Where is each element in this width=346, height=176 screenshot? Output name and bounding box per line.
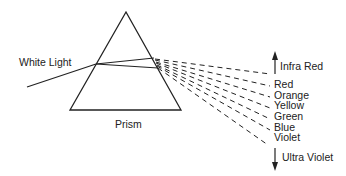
label-white-light: White Light bbox=[19, 56, 72, 68]
ray-red bbox=[155, 60, 270, 86]
label-ultra-violet: Ultra Violet bbox=[282, 151, 333, 163]
arrow-down-icon bbox=[272, 148, 278, 171]
dispersed-rays bbox=[155, 59, 270, 145]
ray-infra-red bbox=[155, 59, 270, 74]
ray-violet bbox=[158, 68, 268, 145]
label-violet: Violet bbox=[274, 131, 300, 143]
internal-ray-bottom bbox=[96, 64, 158, 68]
prism-dispersion-diagram: White Light Prism Infra Red Red Orange Y… bbox=[0, 0, 346, 176]
label-infra-red: Infra Red bbox=[280, 60, 323, 72]
ray-yellow bbox=[156, 63, 270, 108]
arrow-up-icon bbox=[272, 51, 278, 74]
label-prism: Prism bbox=[115, 118, 142, 130]
ray-orange bbox=[156, 62, 270, 97]
internal-ray-top bbox=[96, 58, 154, 64]
